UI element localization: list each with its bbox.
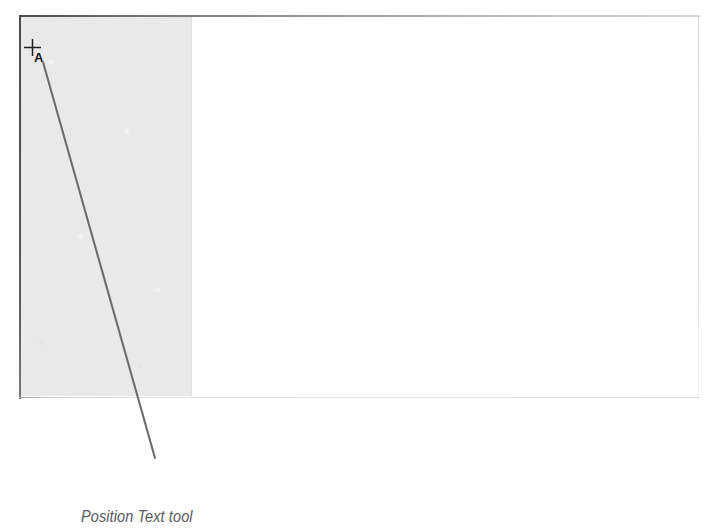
stage-border-bottom [19,397,700,398]
stage-border-left [19,15,21,399]
caption-line-1: Position Text tool [81,505,345,528]
figure-canvas: A Position Text tool pointer off the sta… [0,0,719,532]
figure-caption: Position Text tool pointer off the stage [81,459,345,532]
stage-border-right [698,16,699,398]
stage-border-top [19,15,700,17]
pasteboard-right-edge [191,17,192,396]
svg-text:A: A [34,50,44,65]
pasteboard-panel[interactable] [20,17,192,396]
text-tool-crosshair-icon[interactable]: A [22,38,56,70]
